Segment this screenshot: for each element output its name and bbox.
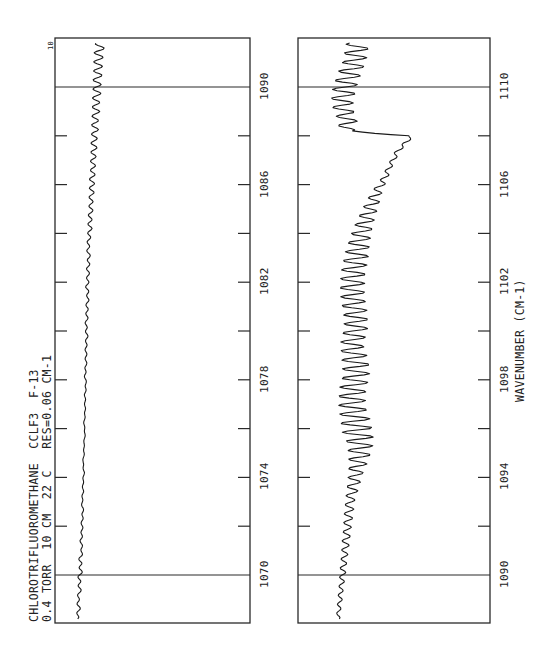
scale-label: 10 xyxy=(47,41,55,50)
tick-label: 1074 xyxy=(258,463,271,491)
right-panel-frame xyxy=(298,38,490,623)
left-axis-ticks xyxy=(55,136,250,526)
tick-label: 1086 xyxy=(258,170,271,198)
tick-label: 1106 xyxy=(498,170,511,198)
tick-label: 1090 xyxy=(498,560,511,588)
axis-label-wavenumber: WAVENUMBER (CM-1) xyxy=(513,279,527,402)
tick-label: 1078 xyxy=(258,365,271,393)
tick-label: 1094 xyxy=(498,463,511,491)
tick-label: 1102 xyxy=(498,267,511,295)
right-reference-lines xyxy=(298,87,490,575)
tick-label: 1110 xyxy=(498,72,511,100)
right-panel xyxy=(298,38,490,623)
tick-label: 1098 xyxy=(498,365,511,393)
tick-label: 1090 xyxy=(258,72,271,100)
tick-label: 1082 xyxy=(258,267,271,295)
left-spectrum-trace xyxy=(77,43,104,619)
tick-label: 1070 xyxy=(258,560,271,588)
right-axis-ticks xyxy=(298,136,490,526)
spectrum-chart xyxy=(0,0,549,662)
title-line-1: CHLOROTRIFLUOROMETHANE CCLF3 F-13 xyxy=(27,369,41,622)
left-panel-frame xyxy=(55,38,250,623)
title-line-2: 0.4 TORR 10 CM 22 C RES=0.06 CM-1 xyxy=(40,355,54,622)
left-panel xyxy=(55,38,250,623)
right-spectrum-trace xyxy=(332,43,411,619)
left-reference-lines xyxy=(55,87,250,575)
